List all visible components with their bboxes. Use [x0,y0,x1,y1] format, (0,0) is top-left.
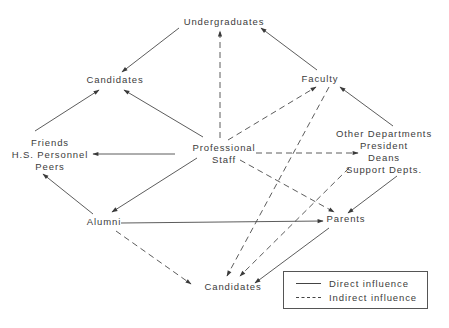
legend: Direct influence Indirect influence [283,271,428,309]
edge-alumni-to-parents [121,221,323,223]
edge-staff-to-candidates [124,90,203,137]
legend-item-indirect: Indirect influence [296,291,417,303]
node-professional-staff: Professional Staff [192,142,255,166]
legend-label: Direct influence [329,278,409,289]
node-label-line: President [336,140,432,152]
node-label-line: Other Departments [336,128,432,140]
edge-undergraduates-to-candidates [122,28,179,72]
edge-staff-to-faculty [228,87,316,140]
legend-item-direct: Direct influence [296,277,409,289]
node-parents: Parents [326,213,365,225]
node-other-group: Other Departments President Deans Suppor… [336,128,432,176]
node-label: Parents [326,213,365,224]
edge-alumni-to-candidates-bottom [116,231,191,284]
node-label: Candidates [86,74,143,85]
edge-other-to-faculty [340,87,393,126]
node-candidates-top: Candidates [86,74,143,86]
node-label-line: Peers [12,161,89,173]
edge-staff-to-parents [240,160,334,212]
node-alumni: Alumni [87,216,121,228]
node-label-line: Staff [192,154,255,166]
solid-line-icon [296,283,321,284]
node-label: Candidates [204,281,261,292]
node-label: Faculty [302,73,339,84]
node-undergraduates: Undergraduates [184,16,265,28]
node-friends-group: Friends H.S. Personnel Peers [12,137,89,173]
edge-faculty-to-undergraduates [261,28,317,70]
node-label-line: H.S. Personnel [12,149,89,161]
node-label-line: Support Depts. [336,164,432,176]
node-label: Alumni [87,216,121,227]
node-label-line: Deans [336,152,432,164]
edge-staff-to-alumni [112,158,197,212]
edge-other-to-parents [348,176,397,213]
edge-alumni-to-friends [43,174,93,214]
node-candidates-bottom: Candidates [204,281,261,293]
edge-friends-to-candidates [35,90,99,131]
node-faculty: Faculty [302,73,339,85]
node-label-line: Friends [12,137,89,149]
node-label: Undergraduates [184,16,265,27]
legend-label: Indirect influence [329,292,417,303]
dashed-line-icon [296,297,321,298]
node-label-line: Professional [192,142,255,154]
